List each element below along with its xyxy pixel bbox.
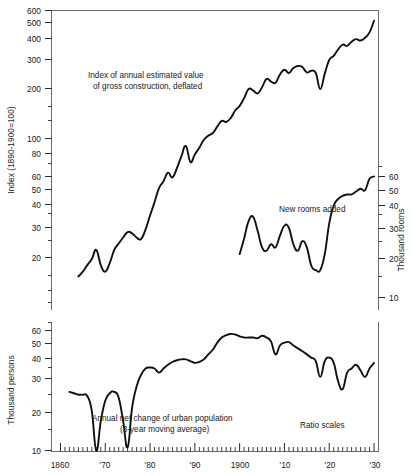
upper-left-tick-60: 60	[32, 172, 42, 182]
x-tick-1920: '20	[325, 460, 336, 470]
x-tick-1890: '90	[190, 460, 201, 470]
lower-left-tick-20: 20	[32, 408, 42, 418]
annotation-ratio-scales: Ratio scales	[300, 421, 345, 430]
x-tick-1860: 1860	[51, 460, 70, 470]
lower-left-tick-40: 40	[32, 354, 42, 364]
upper-left-tick-600: 600	[27, 6, 41, 16]
upper-left-tick-100: 100	[27, 134, 41, 144]
lower-left-ticks	[45, 323, 52, 451]
upper-left-axis-title: Index (1890-1900=100)	[6, 106, 16, 194]
upper-right-tick-10: 10	[389, 293, 399, 303]
upper-right-tick-60: 60	[389, 172, 399, 182]
lower-left-tick-50: 50	[32, 339, 42, 349]
annotation-population-line2: (3-year moving average)	[120, 425, 209, 434]
lower-left-tick-10: 10	[32, 446, 42, 456]
series-construction-index	[78, 21, 374, 277]
annotation-new-rooms: New rooms added	[279, 205, 346, 214]
upper-left-tick-20: 20	[32, 253, 42, 263]
x-axis-tick-labels: 1860 '70 '80 '90 1900 '10 '20 '30	[51, 460, 381, 470]
upper-right-tick-50: 50	[389, 186, 399, 196]
upper-left-tick-400: 400	[27, 34, 41, 44]
x-tick-1870: '70	[100, 460, 111, 470]
upper-left-tick-200: 200	[27, 84, 41, 94]
annotation-construction-line2: of gross construction, deflated	[93, 82, 203, 91]
upper-left-tick-50: 50	[32, 185, 42, 195]
lower-left-axis-title: Thousand persons	[6, 355, 16, 424]
annotation-population-line1: Annual net change of urban population	[92, 414, 233, 423]
upper-left-tick-30: 30	[32, 223, 42, 233]
x-tick-1900: 1900	[231, 460, 250, 470]
x-tick-1880: '80	[145, 460, 156, 470]
series-new-rooms-added	[240, 177, 374, 272]
upper-right-ticks	[379, 167, 386, 298]
upper-left-tick-40: 40	[32, 200, 42, 210]
x-tick-1910: '10	[280, 460, 291, 470]
series-urban-population-change	[69, 334, 374, 451]
lower-left-tick-30: 30	[32, 374, 42, 384]
chart-canvas: 600 500 400 300 200 100 80 60 50 40 30 2…	[0, 0, 413, 476]
x-axis-ticks	[60, 443, 374, 452]
upper-left-ticks	[45, 11, 52, 303]
annotation-construction-line1: Index of annual estimated value	[88, 71, 204, 80]
chart-figure: 600 500 400 300 200 100 80 60 50 40 30 2…	[0, 0, 413, 476]
upper-right-axis-title: Thousand rooms	[396, 209, 406, 272]
upper-left-tick-300: 300	[27, 55, 41, 65]
upper-left-tick-500: 500	[27, 18, 41, 28]
upper-left-tick-80: 80	[32, 149, 42, 159]
x-tick-1930: '30	[370, 460, 381, 470]
lower-left-tick-60: 60	[32, 326, 42, 336]
